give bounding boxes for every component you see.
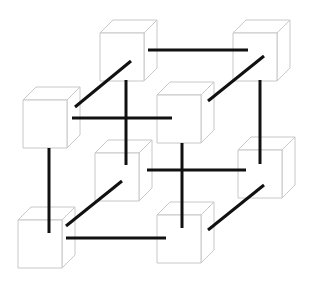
cube-bottom-back-left [95,140,152,201]
cube-top-front-left [23,87,80,148]
link-bottom-back-left-to-bottom-front-left [66,181,122,226]
cube-bottom-front-right [157,202,214,263]
cube-network-diagram: Eight cubes arranged at the corners of a… [0,0,311,283]
cube-front-face [100,33,144,81]
cube-bottom-back-right [238,137,295,198]
cube-top-front-right [157,82,214,143]
link-bottom-back-right-to-bottom-front-right [208,185,264,230]
cubes-layer [18,20,295,268]
cube-front-face [95,153,139,201]
cube-front-face [23,100,67,148]
cube-front-face [18,220,62,268]
diagram-canvas [0,0,311,283]
front-links-layer [49,50,264,238]
